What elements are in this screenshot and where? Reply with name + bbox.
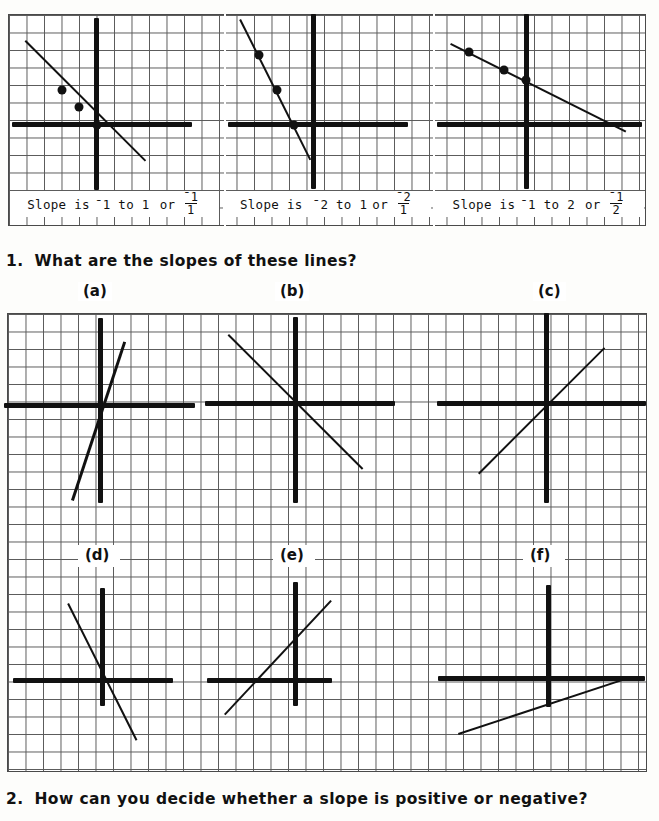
graph-label-f: (f) bbox=[525, 546, 555, 565]
example-2-caption-prefix: Slope is bbox=[240, 197, 303, 212]
example-3-connector: or bbox=[585, 197, 601, 212]
graph-label-a: (a) bbox=[78, 282, 112, 301]
example-1-fraction-numerator: 1 bbox=[191, 190, 199, 204]
example-1-x-axis bbox=[12, 122, 192, 127]
example-2-point-2 bbox=[272, 85, 281, 94]
example-2-y-axis bbox=[311, 14, 316, 189]
example-1-point-2 bbox=[75, 103, 84, 112]
example-1-caption-prefix: Slope is bbox=[27, 197, 90, 212]
example-3-y-axis bbox=[524, 14, 529, 189]
example-3-fraction: 1 2 bbox=[607, 191, 626, 216]
example-1-caption: Slope is1 to 1or 1 1 bbox=[10, 191, 219, 217]
graph-c-x-axis bbox=[437, 401, 646, 406]
example-2-fraction-numerator: 2 bbox=[404, 190, 412, 204]
graph-e-y-axis bbox=[293, 582, 298, 706]
question-1-text: What are the slopes of these lines? bbox=[34, 252, 356, 270]
graph-d-y-axis bbox=[100, 588, 105, 706]
graph-label-e: (e) bbox=[275, 546, 309, 565]
example-1-rise-run: 1 to 1 bbox=[103, 197, 150, 212]
question-1-number: 1. bbox=[6, 252, 23, 270]
example-3-fraction-numerator: 1 bbox=[616, 190, 624, 204]
worksheet-page: Slope is1 to 1or 1 1 Slope is2 to 1or 2 … bbox=[0, 0, 659, 821]
example-2-fraction-sign bbox=[396, 190, 404, 204]
example-1-point-3 bbox=[92, 120, 101, 129]
graph-f-x-axis bbox=[438, 676, 645, 681]
example-3-caption: Slope is1 to 2or 1 2 bbox=[435, 191, 644, 217]
example-2-point-3 bbox=[290, 120, 299, 129]
example-3-fraction-sign bbox=[609, 190, 617, 204]
question-2-number: 2. bbox=[6, 790, 23, 808]
example-1-fraction-denominator: 1 bbox=[185, 203, 197, 216]
example-2-caption: Slope is2 to 1or 2 1 bbox=[223, 191, 432, 217]
graph-f-y-axis bbox=[546, 585, 551, 707]
graph-b-y-axis bbox=[293, 317, 298, 503]
example-3-negative-sign bbox=[520, 197, 528, 212]
example-2-point-1 bbox=[255, 50, 264, 59]
example-1-connector: or bbox=[160, 197, 176, 212]
example-2-rise-run: 2 to 1 bbox=[320, 197, 367, 212]
example-1-fraction-sign bbox=[183, 190, 191, 204]
example-3-rise-run: 1 to 2 bbox=[528, 197, 575, 212]
question-1: 1. What are the slopes of these lines? bbox=[6, 252, 357, 270]
graph-e-x-axis bbox=[207, 678, 332, 683]
example-2-fraction-denominator: 1 bbox=[398, 203, 410, 216]
example-1-negative-sign bbox=[95, 197, 103, 212]
example-2-negative-sign bbox=[313, 197, 321, 212]
example-3-point-2 bbox=[500, 65, 509, 74]
example-2-connector: or bbox=[372, 197, 388, 212]
example-1-point-1 bbox=[57, 85, 66, 94]
example-captions: Slope is1 to 1or 1 1 Slope is2 to 1or 2 … bbox=[8, 191, 646, 220]
example-1-fraction: 1 1 bbox=[181, 191, 200, 216]
example-3-point-1 bbox=[465, 48, 474, 57]
example-1-y-axis bbox=[94, 18, 99, 190]
graph-label-d: (d) bbox=[80, 546, 114, 565]
question-2: 2. How can you decide whether a slope is… bbox=[6, 790, 588, 808]
example-3-caption-prefix: Slope is bbox=[453, 197, 516, 212]
example-3-point-3 bbox=[522, 76, 531, 85]
graph-d-x-axis bbox=[13, 678, 173, 683]
example-2-fraction: 2 1 bbox=[394, 191, 413, 216]
graph-label-c: (c) bbox=[533, 282, 566, 301]
graph-label-b: (b) bbox=[275, 282, 309, 301]
question-2-text: How can you decide whether a slope is po… bbox=[34, 790, 587, 808]
example-3-fraction-denominator: 2 bbox=[610, 203, 622, 216]
example-2-x-axis bbox=[228, 122, 408, 127]
